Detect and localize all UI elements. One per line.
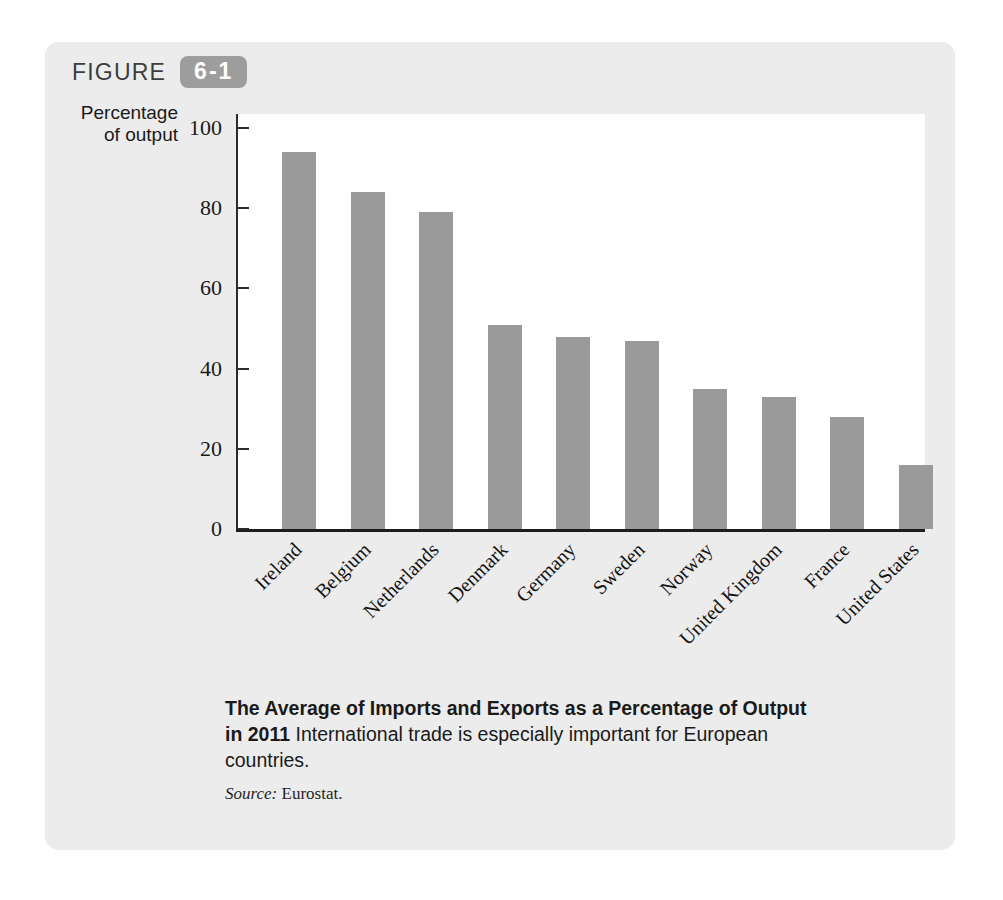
caption-body: International trade is especially import… (225, 723, 768, 771)
y-tick-label-40: 40 (200, 356, 222, 382)
figure-card: FIGURE 6-1 Percentage of output 10080604… (45, 42, 955, 850)
y-tick-label-60: 60 (200, 275, 222, 301)
y-axis-title-line2: of output (81, 124, 178, 146)
bar-united-kingdom (762, 397, 796, 529)
bar-united-states (899, 465, 933, 529)
bar-france (830, 417, 864, 529)
figure-number-badge: 6-1 (180, 56, 247, 88)
bar-belgium (351, 192, 385, 529)
y-tick-label-0: 0 (211, 516, 222, 542)
y-tick-label-100: 100 (189, 115, 222, 141)
bar-germany (556, 337, 590, 529)
chart-plot-area: Percentage of output 100806040200 Irelan… (236, 114, 925, 532)
figure-source: Source: Eurostat. (225, 784, 342, 804)
bar-sweden (625, 341, 659, 529)
source-value: Eurostat. (282, 784, 343, 803)
y-axis-title: Percentage of output (81, 102, 178, 147)
figure-header: FIGURE 6-1 (72, 56, 247, 88)
figure-caption: The Average of Imports and Exports as a … (225, 695, 825, 773)
y-axis-title-line1: Percentage (81, 102, 178, 124)
bar-denmark (488, 325, 522, 530)
y-tick-label-80: 80 (200, 195, 222, 221)
figure-label: FIGURE (72, 59, 166, 86)
bar-series: IrelandBelgiumNetherlandsDenmarkGermanyS… (238, 114, 925, 529)
source-label: Source: (225, 784, 277, 803)
bar-norway (693, 389, 727, 529)
bar-ireland (282, 152, 316, 529)
y-tick-label-20: 20 (200, 436, 222, 462)
bar-netherlands (419, 212, 453, 529)
